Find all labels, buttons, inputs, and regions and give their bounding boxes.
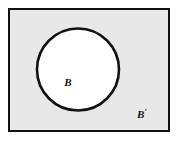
set-b-label: B <box>63 76 71 88</box>
set-b-circle <box>37 29 119 111</box>
set-b-complement-label-letter: B <box>136 108 144 120</box>
set-b-label-letter: B <box>63 76 71 88</box>
venn-diagram-canvas: B B′ <box>0 0 179 142</box>
venn-diagram-figure: B B′ <box>0 0 179 142</box>
